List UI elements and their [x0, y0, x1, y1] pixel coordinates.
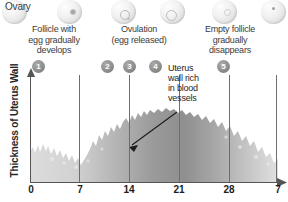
ovary-stage-row: Ovary	[0, 0, 288, 24]
uterus-wall-curve	[30, 108, 278, 182]
stage-badge-4[interactable]: 4	[149, 60, 162, 73]
plot-area	[30, 75, 278, 182]
caption-line: (egg released)	[98, 35, 180, 46]
caption-line: Ovulation	[98, 24, 180, 35]
annotation-line: vessels	[168, 93, 220, 103]
stage-badge-1[interactable]: 1	[32, 60, 45, 73]
y-axis-label: Thickness of Uterus Wall	[9, 61, 20, 181]
stage-badge-2[interactable]: 2	[101, 60, 114, 73]
ovary-sphere-3	[111, 0, 136, 24]
uterus-wall-area-svg	[30, 75, 278, 182]
annotation-line: wall rich	[168, 73, 220, 83]
xtick-35: 7	[268, 184, 288, 195]
x-axis	[30, 182, 282, 183]
caption-line: gradually	[180, 35, 280, 46]
ovary-sphere-2	[57, 0, 82, 24]
xtick-7: 7	[70, 184, 90, 195]
ovary-label: Ovary	[5, 1, 31, 12]
open-empty-follicle-icon	[166, 10, 177, 21]
xtick-14: 14	[119, 184, 139, 195]
caption-ovulation: Ovulation (egg released)	[98, 24, 180, 45]
released-egg-icon	[127, 17, 130, 20]
xtick-21: 21	[169, 184, 189, 195]
xtick-28: 28	[219, 184, 239, 195]
shrinking-follicle-icon	[224, 9, 231, 16]
menstrual-cycle-figure: Ovary Follicle with egg gradually develo…	[0, 0, 288, 202]
tiny-remnant-dot-icon	[272, 7, 275, 10]
caption-line: egg gradually	[8, 35, 100, 46]
small-dark-follicle-icon	[70, 9, 76, 15]
gridline-day-28	[229, 75, 230, 182]
gridline-day-35	[276, 75, 277, 182]
stage-captions: Follicle with egg gradually develops Ovu…	[0, 24, 288, 60]
ovary-sphere-6	[261, 0, 286, 24]
caption-line: disappears	[180, 45, 280, 56]
caption-line: Follicle with	[8, 24, 100, 35]
ovary-sphere-5	[212, 0, 237, 24]
gridline-day-14	[129, 75, 130, 182]
uterus-wall-annotation: Uterus wall rich in blood vessels	[168, 63, 220, 103]
annotation-line: Uterus	[168, 63, 220, 73]
caption-line: develops	[8, 45, 100, 56]
caption-empty-follicle: Empty follicle gradually disappears	[180, 24, 280, 56]
gridline-day-7	[79, 75, 80, 182]
xtick-0: 0	[21, 184, 41, 195]
caption-follicle-develops: Follicle with egg gradually develops	[8, 24, 100, 56]
ovary-sphere-4	[160, 0, 185, 24]
annotation-line: in blood	[168, 83, 220, 93]
y-axis	[30, 75, 31, 182]
caption-line: Empty follicle	[180, 24, 280, 35]
stage-badge-3[interactable]: 3	[123, 60, 136, 73]
uterus-wall-thickness-chart: Thickness of Uterus Wall	[0, 60, 288, 202]
